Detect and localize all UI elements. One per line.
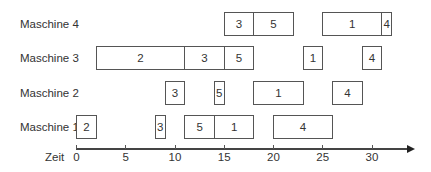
task-bar: 4: [362, 46, 383, 70]
task-bar: 5: [224, 46, 255, 70]
task-bar: 1: [322, 12, 382, 36]
x-axis-title: Zeit: [45, 151, 64, 163]
task-bar: 4: [381, 12, 392, 36]
x-tick: [273, 145, 274, 149]
x-tick: [224, 145, 225, 149]
x-tick-label: 0: [73, 151, 79, 163]
x-tick-label: 30: [366, 151, 379, 163]
x-tick-label: 5: [123, 151, 129, 163]
task-bar: 2: [76, 115, 97, 139]
row-label: Maschine 1: [20, 120, 79, 134]
x-tick: [372, 145, 373, 149]
task-bar: 1: [303, 46, 324, 70]
task-bar: 5: [253, 12, 293, 36]
x-tick: [175, 145, 176, 149]
task-bar: 3: [224, 12, 255, 36]
row-label: Maschine 4: [20, 17, 79, 31]
task-bar: 1: [253, 81, 303, 105]
task-bar: 1: [214, 115, 254, 139]
x-tick-label: 25: [316, 151, 329, 163]
x-tick: [322, 145, 323, 149]
x-tick: [125, 145, 126, 149]
x-tick-label: 10: [169, 151, 182, 163]
task-bar: 4: [332, 81, 363, 105]
x-tick-label: 20: [267, 151, 280, 163]
task-bar: 3: [155, 115, 166, 139]
task-bar: 2: [96, 46, 186, 70]
task-bar: 5: [184, 115, 215, 139]
task-bar: 3: [165, 81, 186, 105]
x-axis-arrow-icon: [407, 145, 415, 153]
x-tick: [76, 145, 77, 149]
task-bar: 5: [214, 81, 225, 105]
row-label: Maschine 2: [20, 86, 79, 100]
x-tick-label: 15: [218, 151, 231, 163]
row-label: Maschine 3: [20, 51, 79, 65]
task-bar: 4: [273, 115, 333, 139]
task-bar: 3: [184, 46, 224, 70]
